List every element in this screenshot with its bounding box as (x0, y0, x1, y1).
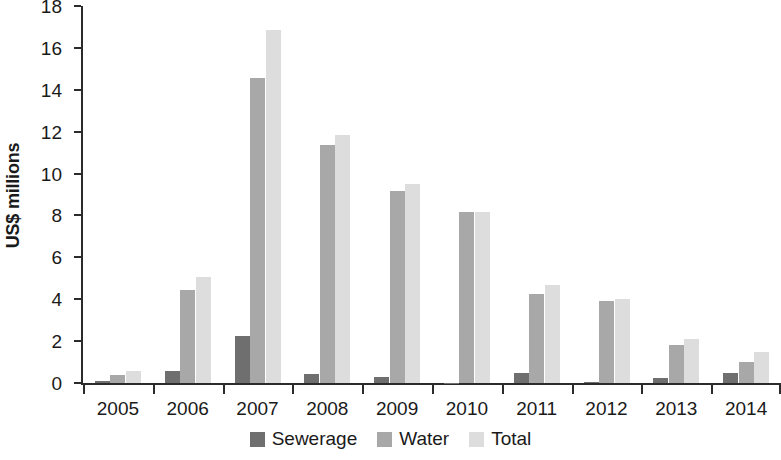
bar-water-2009 (390, 191, 405, 383)
bar-water-2010 (459, 212, 474, 383)
legend-item-total: Total (469, 428, 531, 450)
bar-group (723, 6, 769, 383)
legend-item-water: Water (377, 428, 449, 450)
x-tick-mark (223, 385, 225, 394)
chart-legend: SewerageWaterTotal (0, 428, 781, 450)
legend-label-total: Total (491, 428, 531, 450)
bar-total-2007 (266, 30, 281, 383)
y-tick-mark (74, 47, 81, 49)
bar-total-2014 (754, 352, 769, 383)
y-tick-mark (74, 298, 81, 300)
bar-total-2008 (335, 135, 350, 383)
x-tick-label: 2014 (725, 398, 767, 420)
y-tick-mark (74, 214, 81, 216)
x-tick-mark (292, 385, 294, 394)
plot-area: 024681012141618 200520062007200820092010… (28, 6, 781, 390)
y-tick-label: 14 (41, 80, 62, 99)
x-tick-mark (641, 385, 643, 394)
bar-total-2011 (545, 285, 560, 383)
bar-sewerage-2009 (374, 377, 389, 383)
x-tick-label: 2013 (655, 398, 697, 420)
bar-group (653, 6, 699, 383)
bar-group (304, 6, 350, 383)
x-tick-mark (83, 385, 85, 394)
bar-total-2012 (615, 299, 630, 383)
x-tick-mark (153, 385, 155, 394)
x-tick-mark (711, 385, 713, 394)
y-tick-mark (74, 131, 81, 133)
y-axis-ticks: 024681012141618 (28, 6, 74, 390)
y-tick-label: 2 (51, 332, 62, 351)
y-tick-mark (74, 256, 81, 258)
bar-group (95, 6, 141, 383)
x-tick-mark (432, 385, 434, 394)
bar-group (235, 6, 281, 383)
x-tick-mark (572, 385, 574, 394)
x-tick-label: 2007 (236, 398, 278, 420)
bar-group (374, 6, 420, 383)
legend-swatch-sewerage (250, 432, 265, 447)
bar-total-2010 (475, 212, 490, 383)
y-tick-label: 18 (41, 0, 62, 16)
bar-water-2011 (529, 294, 544, 383)
bar-sewerage-2012 (584, 382, 599, 383)
y-tick-label: 10 (41, 164, 62, 183)
bar-group (444, 6, 490, 383)
bar-sewerage-2011 (514, 373, 529, 383)
y-tick-mark (74, 89, 81, 91)
y-tick-label: 4 (51, 290, 62, 309)
bar-sewerage-2014 (723, 373, 738, 383)
bars-container (83, 6, 781, 383)
bar-sewerage-2007 (235, 336, 250, 383)
bar-total-2005 (126, 371, 141, 383)
bar-water-2008 (320, 145, 335, 383)
bar-water-2012 (599, 301, 614, 383)
x-tick-label: 2009 (376, 398, 418, 420)
x-tick-label: 2008 (306, 398, 348, 420)
x-axis-line (81, 383, 781, 385)
bar-sewerage-2013 (653, 378, 668, 383)
bar-water-2013 (669, 345, 684, 383)
bar-total-2009 (405, 184, 420, 383)
y-tick-label: 8 (51, 206, 62, 225)
y-tick-mark (74, 173, 81, 175)
bar-group (584, 6, 630, 383)
y-tick-label: 12 (41, 122, 62, 141)
x-axis-labels: 2005200620072008200920102011201220132014 (83, 398, 781, 428)
bar-sewerage-2005 (95, 381, 110, 383)
bar-chart: US$ millions 024681012141618 20052006200… (0, 0, 781, 460)
legend-label-water: Water (399, 428, 449, 450)
bar-sewerage-2006 (165, 371, 180, 383)
bar-water-2005 (110, 375, 125, 383)
legend-swatch-water (377, 432, 392, 447)
y-tick-mark (74, 340, 81, 342)
bar-water-2007 (250, 78, 265, 383)
bar-total-2006 (196, 277, 211, 383)
x-tick-label: 2006 (167, 398, 209, 420)
y-axis-title: US$ millions (0, 0, 28, 390)
bar-water-2014 (739, 362, 754, 383)
y-axis-title-text: US$ millions (4, 142, 25, 248)
bar-total-2013 (684, 339, 699, 383)
legend-item-sewerage: Sewerage (250, 428, 358, 450)
bar-group (165, 6, 211, 383)
x-tick-label: 2005 (97, 398, 139, 420)
bar-sewerage-2008 (304, 374, 319, 383)
y-tick-mark (74, 5, 81, 7)
x-tick-mark (502, 385, 504, 394)
y-tick-label: 16 (41, 38, 62, 57)
bar-group (514, 6, 560, 383)
legend-swatch-total (469, 432, 484, 447)
y-tick-label: 6 (51, 248, 62, 267)
x-tick-mark (362, 385, 364, 394)
x-tick-label: 2011 (516, 398, 557, 420)
bar-water-2006 (180, 290, 195, 383)
y-tick-label: 0 (51, 374, 62, 393)
x-tick-label: 2012 (585, 398, 627, 420)
y-tick-mark (74, 382, 81, 384)
legend-label-sewerage: Sewerage (272, 428, 358, 450)
x-tick-label: 2010 (446, 398, 488, 420)
